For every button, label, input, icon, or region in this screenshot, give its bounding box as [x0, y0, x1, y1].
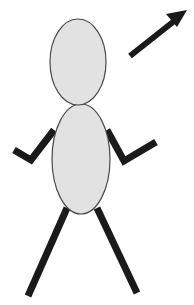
head-ellipse	[50, 19, 106, 105]
torso-ellipse	[52, 104, 110, 214]
illustration-canvas	[0, 0, 194, 305]
stick-figure-drawing	[0, 0, 194, 305]
